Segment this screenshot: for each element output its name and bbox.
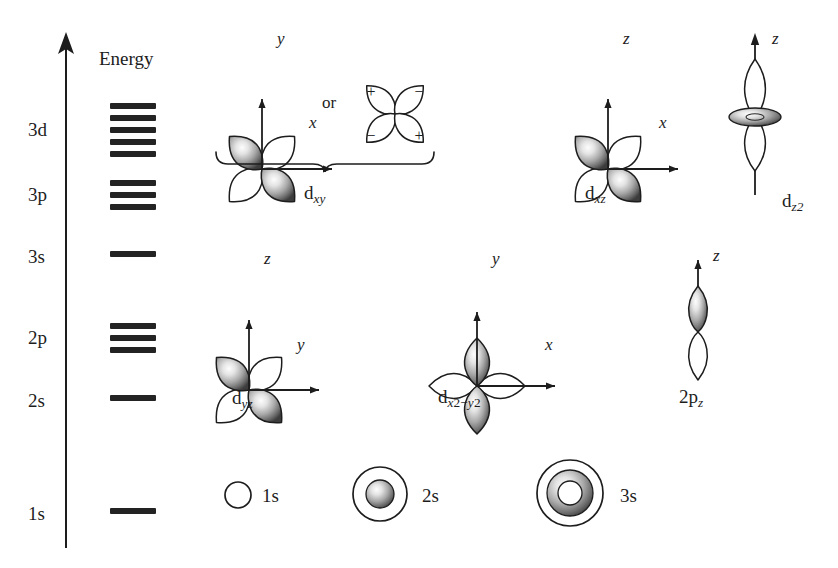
orbital-caption-dx2y2-main: d <box>438 386 448 407</box>
orbital-caption-dyz-main: d <box>232 387 242 408</box>
axis-tip-label-dz2-z: z <box>772 30 779 47</box>
level-label-1s: 1s <box>28 504 45 523</box>
orbital-caption-2pz-main: 2p <box>679 386 698 407</box>
orbital-core-node <box>558 481 582 505</box>
energy-bar-2p <box>110 323 156 329</box>
orbital-axis-arrowhead <box>751 33 759 45</box>
s-orbital-label-2s: 2s <box>422 486 439 505</box>
orbital-caption-dz2-sub: z2 <box>792 199 804 214</box>
axis-tip-label-dx2y2-x: x <box>545 336 553 353</box>
energy-bar-1s <box>110 508 156 514</box>
orbital-lobe-shaded-lower-right <box>607 168 640 201</box>
orbital-caption-2pz-sub: z <box>698 395 703 410</box>
orbital-core-sphere <box>366 480 394 508</box>
s-orbital-label-3s: 3s <box>620 486 637 505</box>
energy-axis-arrowhead <box>56 32 78 56</box>
energy-bar-3d <box>110 103 156 109</box>
orbital-sign-lower-left: − <box>366 127 375 144</box>
orbital-lobe-white-upper-right <box>248 357 281 390</box>
energy-bar-3p <box>110 204 156 210</box>
orbital-1s <box>221 478 255 512</box>
orbital-caption-dx2y2-sup-y: 2 <box>474 395 481 410</box>
orbital-caption-dxy: dxy <box>304 183 326 205</box>
level-label-2p: 2p <box>28 328 47 347</box>
orbital-2s <box>349 463 411 525</box>
orbital-dxy-signs: +−−+ <box>340 64 450 164</box>
axis-tip-label-dxz-x: x <box>659 114 667 131</box>
orbital-dz2 <box>703 25 813 210</box>
orbital-caption-dz2: dz2 <box>782 191 804 213</box>
axis-tip-label-dx2y2-y: y <box>492 250 500 267</box>
orbital-3s <box>533 456 607 530</box>
axis-tip-label-dxz-z: z <box>623 30 630 47</box>
energy-bar-2p <box>110 347 156 353</box>
energy-bar-3d <box>110 139 156 145</box>
energy-bar-3p <box>110 192 156 198</box>
orbital-torus-ring <box>729 108 781 126</box>
orbital-shell-outer <box>225 482 251 508</box>
dxy-brace <box>214 150 436 174</box>
level-label-3s: 3s <box>28 247 45 266</box>
or-connector-label: or <box>322 94 336 111</box>
orbital-caption-dxy-sub: xy <box>314 191 326 206</box>
orbital-caption-2pz: 2pz <box>679 387 703 409</box>
orbital-caption-dx2y2-minus: − <box>460 395 468 410</box>
orbital-sign-lower-right: + <box>414 127 423 144</box>
energy-bar-2s <box>110 395 156 401</box>
s-orbital-label-1s: 1s <box>262 486 279 505</box>
orbital-lobe-shaded-lower-right <box>248 389 281 422</box>
orbital-caption-dxy-main: d <box>304 182 314 203</box>
energy-bar-3p <box>110 180 156 186</box>
orbital-caption-dxz-sub: xz <box>595 191 606 206</box>
energy-axis-label: Energy <box>99 49 154 68</box>
orbital-lobe-white-bottom <box>689 332 708 380</box>
energy-bar-3d <box>110 151 156 157</box>
orbital-caption-dz2-main: d <box>782 190 792 211</box>
orbital-energy-diagram: Energy 3d 3p 3s 2p 2s 1s +−−+ y x z x z … <box>0 0 838 568</box>
axis-tip-label-dyz-z: z <box>264 250 271 267</box>
orbital-caption-dxz: dxz <box>585 183 606 205</box>
axis-tip-label-dyz-y: y <box>297 336 305 353</box>
orbital-caption-dx2y2: dx2−y2 <box>438 387 481 409</box>
level-label-2s: 2s <box>28 391 45 410</box>
level-label-3p: 3p <box>28 185 47 204</box>
orbital-caption-dxz-main: d <box>585 182 595 203</box>
orbital-caption-dyz-sub: yz <box>242 396 253 411</box>
orbital-dx2-y2 <box>409 304 569 454</box>
energy-bar-3s <box>110 251 156 257</box>
orbital-lobe-shaded-upper-left <box>575 136 608 169</box>
energy-axis-line <box>65 46 67 548</box>
energy-bar-3d <box>110 115 156 121</box>
orbital-caption-dyz: dyz <box>232 388 253 410</box>
energy-bar-2p <box>110 335 156 341</box>
orbital-lobe-shaded-top <box>689 286 708 332</box>
orbital-lobe-shaded-upper-left <box>216 357 249 390</box>
orbital-dyz <box>177 310 327 450</box>
energy-bar-3d <box>110 127 156 133</box>
level-label-3d: 3d <box>28 120 47 139</box>
orbital-dxz <box>536 89 686 229</box>
orbital-sign-upper-right: − <box>414 83 423 100</box>
axis-tip-label-dxy-x: x <box>309 114 317 131</box>
orbital-lobe-white-upper-right <box>607 136 640 169</box>
orbital-sign-upper-left: + <box>366 83 375 100</box>
axis-tip-label-dxy-y: y <box>277 30 285 47</box>
axis-tip-label-2pz-z: z <box>713 247 720 264</box>
